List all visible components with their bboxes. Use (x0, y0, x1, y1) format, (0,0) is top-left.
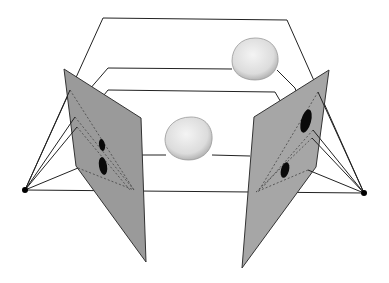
lower-object (165, 117, 212, 160)
right-camera-center (361, 190, 367, 196)
upper-object (232, 38, 278, 80)
left-camera-center (22, 187, 28, 193)
diagram-canvas (0, 0, 389, 283)
lower-object-to-right-plane-line (212, 155, 250, 156)
stereo-diagram: Two-view stereo projection of 3D objects (0, 0, 389, 283)
right-image-plane-group (242, 70, 329, 268)
left-image-plane-group (64, 69, 146, 262)
baseline (25, 190, 364, 193)
